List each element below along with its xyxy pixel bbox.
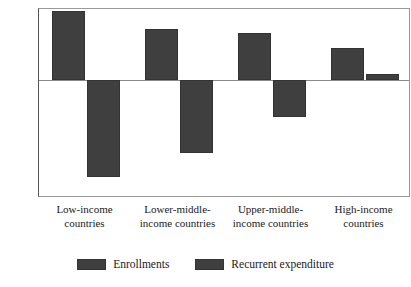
- x-axis-category-label-line: Lower-middle-: [125, 203, 230, 217]
- bar: [145, 29, 178, 80]
- x-axis-category-label-line: income countries: [125, 217, 230, 231]
- legend-entry: Recurrent expenditure: [195, 258, 334, 270]
- bar: [87, 80, 120, 177]
- x-axis-category-label: Low-incomecountries: [32, 203, 137, 230]
- chart-legend: EnrollmentsRecurrent expenditure: [0, 258, 411, 270]
- x-axis-category-label-line: Low-income: [32, 203, 137, 217]
- bar: [331, 48, 364, 80]
- legend-swatch-icon: [195, 259, 224, 270]
- legend-label: Enrollments: [113, 258, 169, 270]
- x-axis-category-label: High-incomecountries: [311, 203, 411, 230]
- plot-area: [38, 8, 410, 197]
- legend-entry: Enrollments: [77, 258, 169, 270]
- x-axis-category-label-line: countries: [32, 217, 137, 231]
- legend-label: Recurrent expenditure: [231, 258, 334, 270]
- bar: [366, 74, 399, 80]
- bar: [52, 11, 85, 80]
- bar: [238, 33, 271, 80]
- x-axis-category-label-line: High-income: [311, 203, 411, 217]
- bar: [180, 80, 213, 153]
- x-axis-category-label-line: income countries: [218, 217, 323, 231]
- bars-layer: [39, 9, 409, 196]
- x-axis-category-label-line: countries: [311, 217, 411, 231]
- bar: [273, 80, 306, 117]
- x-axis-category-label: Upper-middle-income countries: [218, 203, 323, 230]
- bar-chart-figure: 9630−3−6−9−12−15 Low-incomecountriesLowe…: [0, 0, 411, 287]
- x-axis-category-label-line: Upper-middle-: [218, 203, 323, 217]
- x-axis-category-label: Lower-middle-income countries: [125, 203, 230, 230]
- legend-swatch-icon: [77, 259, 106, 270]
